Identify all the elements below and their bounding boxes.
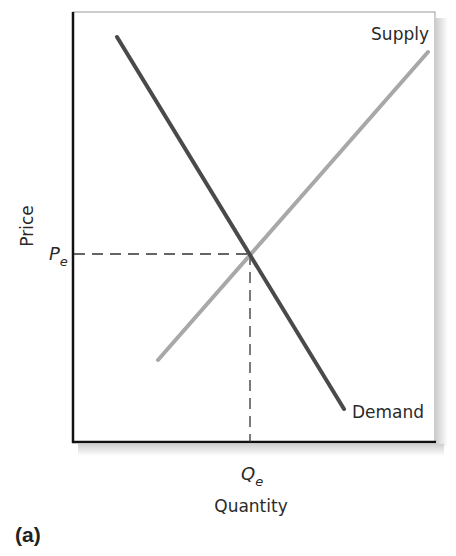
pe-tick-label: Pe [49, 243, 68, 269]
panel-label: (a) [15, 523, 41, 547]
frame-shadow-bottom [78, 444, 444, 456]
frame-shadow-right [436, 18, 448, 446]
demand-label: Demand [352, 402, 424, 422]
supply-label: Supply [371, 24, 429, 44]
qe-tick-label: Qe [241, 463, 263, 489]
x-axis-label: Quantity [214, 496, 287, 516]
supply-demand-chart: Supply Demand Price Pe Qe Quantity [0, 0, 456, 556]
y-axis-label: Price [17, 205, 37, 246]
plot-area [73, 12, 435, 442]
